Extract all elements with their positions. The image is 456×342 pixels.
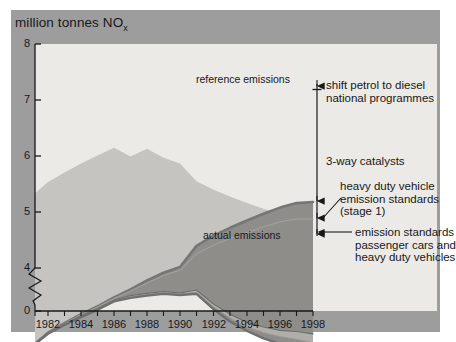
annotation-hdv-stage1: heavy duty vehicle emission standards (s… xyxy=(340,180,439,218)
y-tick-label-6: 6 xyxy=(14,149,30,161)
y-tick-label-8: 8 xyxy=(14,37,30,49)
leader-hdv-stage1 xyxy=(322,198,341,219)
annotation-emission-standards: emission standards passenger cars and he… xyxy=(355,226,456,264)
series-bands xyxy=(35,148,313,342)
series-label-reference-emissions: reference emissions xyxy=(196,73,290,85)
y-tick-label-0: 0 xyxy=(14,304,30,316)
annotation-standards-line-1: emission standards xyxy=(355,226,456,239)
y-tick-label-5: 5 xyxy=(14,205,30,217)
annotation-hdv-line-2: emission standards xyxy=(340,193,439,206)
annotation-hdv-line-3: (stage 1) xyxy=(340,205,439,218)
annotation-shift-petrol-line-2: national programmes xyxy=(326,92,434,105)
annotation-3way-catalysts: 3-way catalysts xyxy=(326,155,405,168)
y-tick-label-7: 7 xyxy=(14,93,30,105)
annotation-shift-petrol-to-diesel: shift petrol to diesel national programm… xyxy=(326,79,434,104)
annotation-hdv-line-1: heavy duty vehicle xyxy=(340,180,439,193)
x-tick-label-1998: 1998 xyxy=(293,318,333,330)
y-tick-label-4: 4 xyxy=(14,261,30,273)
series-label-actual-emissions: actual emissions xyxy=(203,229,281,241)
annotation-shift-petrol-line-1: shift petrol to diesel xyxy=(326,79,434,92)
annotation-3way-catalysts-line-1: 3-way catalysts xyxy=(326,155,405,168)
annotation-standards-line-3: heavy duty vehicles xyxy=(355,251,456,264)
annotation-standards-line-2: passenger cars and xyxy=(355,239,456,252)
